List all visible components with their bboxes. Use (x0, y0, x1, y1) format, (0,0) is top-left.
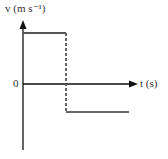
y-axis-arrow-icon (20, 20, 27, 29)
origin-label: 0 (13, 77, 19, 89)
x-axis-label: t (s) (140, 77, 157, 89)
y-axis-label: v (m s⁻¹) (5, 2, 45, 15)
x-axis-arrow-icon (129, 81, 138, 88)
